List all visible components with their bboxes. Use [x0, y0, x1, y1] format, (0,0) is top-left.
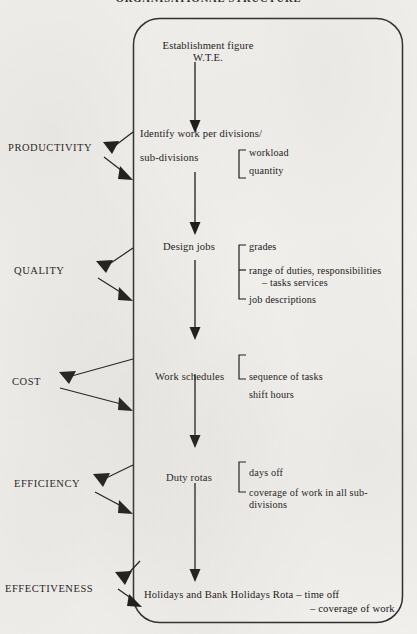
connector-cost: [59, 359, 133, 411]
bracket-efficiency: [239, 462, 246, 492]
node-holidays-rota-line1: Holidays and Bank Holidays Rota – time o…: [144, 589, 339, 602]
node-design-jobs: Design jobs: [163, 241, 215, 254]
connector-effectiveness: [115, 561, 142, 607]
node-identify-work-line2: sub-divisions: [140, 152, 198, 165]
spine-arrow-2: [190, 172, 201, 235]
flow-container-outline: [134, 19, 403, 623]
detail-quality-2: range of duties, responsibilities: [249, 265, 381, 277]
spine-arrow-5: [190, 483, 201, 582]
detail-cost-1: sequence of tasks: [249, 371, 323, 383]
node-holidays-rota-line2: – coverage of work: [310, 603, 395, 616]
connector-efficiency: [93, 465, 133, 514]
detail-productivity-2: quantity: [249, 165, 284, 177]
detail-efficiency-3: divisions: [249, 499, 287, 511]
flowchart-page: ORGANISATIONAL STRUCTURE: [0, 0, 417, 634]
detail-efficiency-2: coverage of work in all sub-: [249, 487, 368, 499]
detail-efficiency-1: days off: [249, 467, 283, 479]
detail-cost-2: shift hours: [249, 389, 294, 401]
detail-quality-1: grades: [249, 241, 277, 253]
spine-arrow-3: [190, 260, 201, 340]
connector-productivity: [103, 132, 133, 180]
stage-label-quality: QUALITY: [14, 265, 65, 277]
bracket-cost: [239, 355, 246, 379]
connector-quality: [96, 248, 133, 301]
bracket-productivity: [239, 150, 246, 178]
node-duty-rotas: Duty rotas: [166, 472, 212, 485]
stage-label-cost: COST: [12, 376, 41, 388]
stage-label-productivity: PRODUCTIVITY: [8, 142, 92, 154]
detail-quality-3: – tasks services: [262, 277, 328, 289]
spine-arrow-4: [190, 374, 201, 448]
bracket-quality: [239, 245, 246, 299]
page-title: ORGANISATIONAL STRUCTURE: [0, 0, 417, 4]
stage-label-efficiency: EFFICIENCY: [14, 478, 80, 490]
node-establishment-figure-line1: Establishment figure: [133, 40, 283, 53]
detail-quality-4: job descriptions: [249, 294, 316, 306]
flowchart-graphics-layer: [0, 0, 417, 634]
stage-label-effectiveness: EFFECTIVENESS: [5, 583, 93, 595]
node-establishment-figure-line2: W.T.E.: [133, 52, 283, 65]
detail-productivity-1: workload: [249, 147, 289, 159]
node-work-schedules: Work schedules: [155, 371, 224, 384]
node-identify-work-line1: Identify work per divisions/: [140, 128, 262, 141]
spine-arrow-1: [190, 62, 201, 133]
